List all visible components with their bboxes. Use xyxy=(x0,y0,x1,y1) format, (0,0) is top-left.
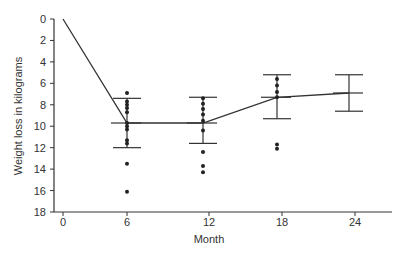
x-tick-label: 0 xyxy=(60,216,66,228)
data-point xyxy=(201,96,205,100)
y-tick-labels: 024681012141618 xyxy=(34,13,46,218)
x-tick-labels: 06121824 xyxy=(60,216,361,228)
data-point xyxy=(275,83,279,87)
data-point xyxy=(125,91,129,95)
data-point xyxy=(201,112,205,116)
x-tick-label: 18 xyxy=(276,216,288,228)
data-points xyxy=(125,77,279,194)
y-tick-label: 4 xyxy=(40,56,46,68)
data-point xyxy=(201,119,205,123)
data-point xyxy=(201,129,205,133)
data-point xyxy=(201,170,205,174)
weight-loss-chart: 024681012141618 06121824 Weight loss in … xyxy=(0,0,399,256)
data-point xyxy=(125,190,129,194)
data-point xyxy=(201,150,205,154)
y-tick-label: 18 xyxy=(34,206,46,218)
x-tick-label: 6 xyxy=(124,216,130,228)
y-tick-label: 8 xyxy=(40,99,46,111)
y-tick-label: 0 xyxy=(40,13,46,25)
data-point xyxy=(125,127,129,131)
data-point xyxy=(275,147,279,151)
data-point xyxy=(125,162,129,166)
y-tick-label: 14 xyxy=(34,163,46,175)
mean-line-path xyxy=(63,19,349,123)
data-point xyxy=(275,77,279,81)
x-tick-label: 12 xyxy=(203,216,215,228)
y-tick-label: 6 xyxy=(40,77,46,89)
error-bar xyxy=(333,75,363,111)
data-point xyxy=(125,110,129,114)
mean-line xyxy=(63,19,349,123)
data-point xyxy=(275,142,279,146)
axes xyxy=(50,19,392,216)
y-tick-label: 10 xyxy=(34,120,46,132)
y-axis-label: Weight loss in kilograms xyxy=(12,56,24,175)
x-tick-label: 24 xyxy=(349,216,361,228)
y-tick-label: 2 xyxy=(40,34,46,46)
x-axis-label: Month xyxy=(194,233,225,245)
data-point xyxy=(275,95,279,99)
data-point xyxy=(125,141,129,145)
data-point xyxy=(201,102,205,106)
data-point xyxy=(201,164,205,168)
data-point xyxy=(275,90,279,94)
y-tick-label: 12 xyxy=(34,142,46,154)
y-tick-label: 16 xyxy=(34,185,46,197)
data-point xyxy=(125,106,129,110)
data-point xyxy=(201,107,205,111)
